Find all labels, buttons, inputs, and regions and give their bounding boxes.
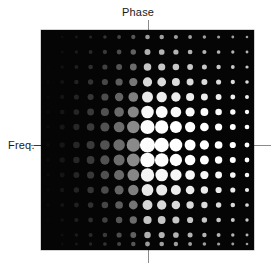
dot-matrix-plot <box>41 30 254 250</box>
figure-container: Phase Freq. <box>0 0 271 269</box>
phase-axis-label: Phase <box>122 6 154 18</box>
dot-matrix-canvas <box>41 30 254 250</box>
